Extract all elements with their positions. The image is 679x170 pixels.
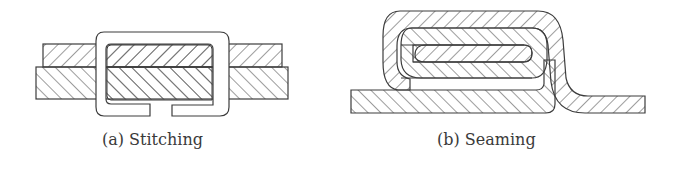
- seaming-diagram: [351, 11, 645, 113]
- upper-sheet-inner: [107, 45, 212, 67]
- caption-stitching: (a) Stitching: [102, 130, 203, 149]
- inner-fold-layer: [413, 45, 532, 62]
- stitching-diagram: [36, 32, 288, 116]
- lower-sheet-inner: [107, 67, 212, 100]
- caption-seaming: (b) Seaming: [437, 130, 536, 149]
